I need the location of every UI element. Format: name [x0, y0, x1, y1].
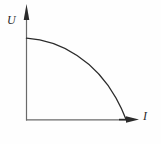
- ui-characteristic-diagram: [0, 0, 161, 144]
- characteristic-curve: [27, 38, 127, 120]
- y-axis-label: U: [7, 14, 16, 26]
- figure-container: U I: [0, 0, 161, 144]
- x-axis-label: I: [143, 110, 147, 122]
- arrow-up-icon: [24, 4, 30, 20]
- arrow-right-icon: [126, 116, 139, 123]
